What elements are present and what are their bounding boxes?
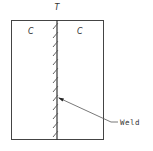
weld-callout-leader (58, 98, 118, 123)
weld-diagram: T C C Weld (0, 0, 153, 151)
top-label-t: T (55, 3, 61, 12)
arrowhead-icon (58, 98, 64, 102)
weld-callout-label: Weld (120, 118, 140, 127)
left-region-label: C (28, 27, 34, 36)
right-region-label: C (77, 27, 83, 36)
